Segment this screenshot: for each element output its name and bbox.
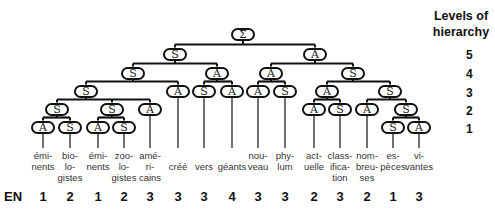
tree-node-a: A	[166, 85, 190, 98]
tree-node-s: S	[163, 48, 187, 61]
tree-node-a: A	[407, 121, 431, 134]
en-value: 3	[174, 189, 181, 204]
tree-node-s: S	[100, 103, 124, 116]
word-label: nom-breu-ses	[356, 150, 378, 183]
word-label: es-pèces	[380, 150, 405, 172]
levels-header-line2: hierarchy	[430, 24, 492, 40]
en-value: 3	[200, 189, 207, 204]
tree-node-s: S	[192, 85, 216, 98]
tree-node-s: S	[74, 85, 98, 98]
word-label: nou-veau	[248, 150, 269, 172]
tree-node-s: S	[112, 121, 136, 134]
level-number: 2	[466, 104, 473, 118]
word-label: bio-lo-gistes	[58, 150, 83, 183]
en-value: 2	[120, 189, 127, 204]
tree-node-a: A	[259, 67, 283, 80]
word-label: act-uelle	[304, 150, 324, 172]
tree-node-s: S	[341, 67, 365, 80]
en-value: 3	[336, 189, 343, 204]
word-label: créé	[169, 150, 187, 172]
tree-node-s: S	[121, 67, 145, 80]
tree-node-sigma: Σ	[231, 28, 255, 41]
tree-node-s: S	[45, 103, 69, 116]
level-number: 1	[466, 122, 473, 136]
en-value: 2	[310, 189, 317, 204]
tree-node-a: A	[205, 67, 229, 80]
tree-node-a: A	[138, 103, 162, 116]
word-label: émi-nents	[86, 150, 109, 172]
tree-node-s: S	[378, 85, 402, 98]
level-number: 4	[466, 67, 473, 81]
tree-node-s: S	[394, 103, 418, 116]
tree-node-a: A	[31, 121, 55, 134]
tree-node-a: A	[86, 121, 110, 134]
level-number: 3	[466, 86, 473, 100]
tree-node-a: A	[355, 103, 379, 116]
en-value: 4	[228, 189, 235, 204]
tree-node-s: S	[273, 85, 297, 98]
word-label: zoo-lo-gistes	[112, 150, 137, 183]
word-label: phy-lum	[276, 150, 294, 172]
word-label: vi-vantes	[405, 150, 433, 172]
en-value: 3	[281, 189, 288, 204]
level-number: 5	[466, 48, 473, 62]
word-label: émi-nents	[31, 150, 54, 172]
syntactic-hierarchy-diagram: ΣSASAASSASAASASSSAASASASASSA émi-nentsbi…	[0, 0, 495, 212]
en-value: 2	[363, 189, 370, 204]
en-value: 2	[66, 189, 73, 204]
en-value: 3	[146, 189, 153, 204]
en-value: 3	[254, 189, 261, 204]
en-value: 1	[389, 189, 396, 204]
en-value: 3	[415, 189, 422, 204]
en-value: 1	[39, 189, 46, 204]
tree-node-a: A	[220, 85, 244, 98]
tree-node-a: A	[315, 85, 339, 98]
word-label: géants	[218, 150, 247, 172]
word-label: amé-ri-cains	[139, 150, 161, 183]
tree-node-a: A	[246, 85, 270, 98]
levels-header-line1: Levels of	[430, 8, 492, 24]
en-value: 1	[94, 189, 101, 204]
en-label: EN	[4, 189, 22, 204]
tree-node-s: S	[381, 121, 405, 134]
tree-node-s: S	[328, 103, 352, 116]
word-label: vers	[195, 150, 213, 172]
word-label: class-ifica-tion	[328, 150, 353, 183]
tree-node-s: S	[58, 121, 82, 134]
tree-node-a: A	[303, 48, 327, 61]
tree-node-a: A	[302, 103, 326, 116]
